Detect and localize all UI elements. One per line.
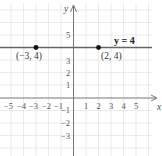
svg-text:4: 4 — [122, 101, 127, 111]
grid — [0, 3, 152, 156]
x-axis-label: x — [156, 102, 162, 112]
point-label-b: (2, 4) — [101, 51, 122, 62]
y-axis-label: y — [63, 4, 69, 14]
svg-text:−2: −2 — [61, 118, 70, 128]
equation-label: y = 4 — [114, 35, 135, 46]
svg-text:−1: −1 — [61, 105, 70, 115]
svg-text:−3: −3 — [61, 131, 70, 141]
point-2-4 — [96, 45, 101, 50]
svg-text:2: 2 — [97, 101, 101, 111]
coordinate-plane: x y −5 −4 −3 −2 −1 1 2 3 4 5 5 3 2 1 −1 … — [0, 0, 162, 156]
svg-text:−3: −3 — [29, 101, 38, 111]
svg-text:−4: −4 — [17, 101, 27, 111]
svg-text:3: 3 — [66, 56, 70, 66]
point-neg3-4 — [34, 45, 39, 50]
point-label-a: (−3, 4) — [16, 51, 42, 62]
svg-text:−2: −2 — [42, 101, 51, 111]
svg-text:5: 5 — [66, 30, 70, 40]
svg-text:5: 5 — [134, 101, 138, 111]
x-tick-labels: −5 −4 −3 −2 −1 1 2 3 4 5 — [4, 101, 138, 111]
y-tick-labels: 5 3 2 1 −1 −2 −3 — [61, 30, 70, 141]
svg-text:1: 1 — [66, 80, 70, 90]
svg-text:2: 2 — [66, 68, 70, 78]
svg-text:−5: −5 — [4, 101, 13, 111]
svg-text:1: 1 — [84, 101, 88, 111]
svg-text:3: 3 — [109, 101, 113, 111]
